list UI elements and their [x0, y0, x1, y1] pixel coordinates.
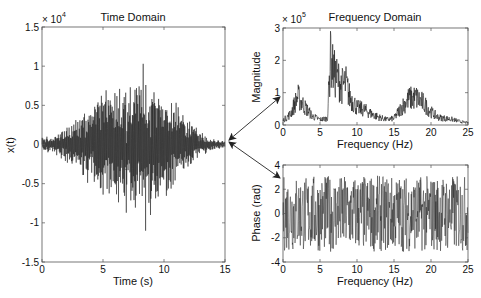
svg-text:15: 15 [219, 264, 231, 275]
svg-text:-4: -4 [271, 257, 280, 268]
phase-ylabel: Phase (rad) [250, 184, 262, 241]
svg-text:3: 3 [274, 23, 280, 34]
time-title: Time Domain [101, 11, 166, 23]
svg-text:0: 0 [39, 264, 45, 275]
svg-text:10: 10 [351, 264, 363, 275]
svg-text:0: 0 [274, 208, 280, 219]
svg-text:1.5: 1.5 [25, 22, 39, 33]
svg-text:20: 20 [425, 264, 437, 275]
arrow-to-phase [229, 142, 280, 178]
svg-text:10: 10 [351, 127, 363, 138]
svg-text:-1: -1 [30, 217, 39, 228]
svg-text:25: 25 [462, 264, 474, 275]
magnitude-multiplier: × 10 [282, 14, 302, 25]
svg-text:0: 0 [33, 139, 39, 150]
svg-text:5: 5 [317, 127, 323, 138]
svg-text:4: 4 [274, 160, 280, 171]
time-ylabel: x(t) [4, 137, 16, 153]
time-domain-plot: 051015-1.5-1-0.500.511.5 Time Domain Tim… [4, 11, 231, 287]
magnitude-title: Frequency Domain [329, 11, 422, 23]
magnitude-plot: 05101520250123 Frequency Domain Frequenc… [250, 11, 474, 150]
phase-plot: 0510152025-4-2024 Frequency (Hz) Phase (… [250, 160, 474, 288]
svg-text:25: 25 [462, 127, 474, 138]
svg-text:2: 2 [274, 184, 280, 195]
svg-text:10: 10 [158, 264, 170, 275]
svg-text:0: 0 [280, 264, 286, 275]
magnitude-ylabel: Magnitude [250, 51, 262, 102]
magnitude-exponent: 5 [302, 11, 306, 18]
svg-text:2: 2 [274, 55, 280, 66]
svg-text:20: 20 [425, 127, 437, 138]
time-signal-line [42, 64, 225, 231]
svg-text:1: 1 [274, 87, 280, 98]
svg-text:0.5: 0.5 [25, 100, 39, 111]
svg-text:5: 5 [317, 264, 323, 275]
svg-text:15: 15 [388, 264, 400, 275]
svg-text:5: 5 [100, 264, 106, 275]
magnitude-line [283, 31, 468, 123]
phase-line [283, 176, 468, 252]
svg-text:-0.5: -0.5 [22, 178, 40, 189]
svg-text:-1.5: -1.5 [22, 257, 40, 268]
svg-text:0: 0 [274, 120, 280, 131]
time-xlabel: Time (s) [113, 275, 153, 287]
magnitude-xlabel: Frequency (Hz) [337, 138, 413, 150]
svg-text:15: 15 [388, 127, 400, 138]
phase-xlabel: Frequency (Hz) [337, 275, 413, 287]
magnitude-ticks: 05101520250123 [274, 23, 474, 139]
time-multiplier: × 10 [42, 14, 62, 25]
svg-text:-2: -2 [271, 232, 280, 243]
time-exponent: 4 [62, 11, 66, 18]
svg-text:0: 0 [280, 127, 286, 138]
svg-text:1: 1 [33, 61, 39, 72]
figure: 051015-1.5-1-0.500.511.5 Time Domain Tim… [0, 0, 481, 298]
